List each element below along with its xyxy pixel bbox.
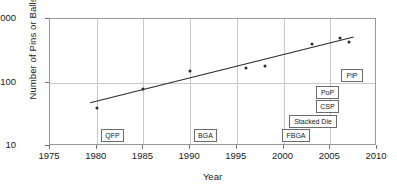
gridline-vertical <box>143 19 144 144</box>
callout-pip: PiP <box>341 69 363 82</box>
data-point <box>189 70 192 73</box>
y-tick-label: 100 <box>0 76 16 87</box>
x-tick-mark <box>236 145 237 149</box>
x-tick-mark <box>96 145 97 149</box>
x-axis-title: Year <box>49 171 376 182</box>
x-tick-mark <box>142 145 143 149</box>
x-tick-label: 1985 <box>119 150 165 161</box>
gridline-vertical <box>190 19 191 144</box>
x-tick-label: 2010 <box>353 150 397 161</box>
plot-area: QFPBGAFBGAStacked DieCSPPoPPiP <box>49 18 376 145</box>
x-tick-mark <box>283 145 284 149</box>
data-point <box>310 43 313 46</box>
x-tick-label: 1980 <box>73 150 119 161</box>
y-tick-label: 10 <box>0 139 16 150</box>
data-point <box>95 106 98 109</box>
gridline-vertical <box>284 19 285 144</box>
x-tick-mark <box>329 145 330 149</box>
gridline-vertical <box>97 19 98 144</box>
data-point <box>142 88 145 91</box>
callout-bga: BGA <box>194 129 217 142</box>
callout-pop: PoP <box>316 86 339 99</box>
chart-figure: Number of Pins or Balls Year 101001000 1… <box>0 0 397 193</box>
x-tick-mark <box>49 145 50 149</box>
callout-csp: CSP <box>316 100 339 113</box>
data-point <box>347 41 350 44</box>
data-point <box>245 66 248 69</box>
callout-fbga: FBGA <box>282 129 310 142</box>
x-tick-label: 1990 <box>166 150 212 161</box>
callout-qfp: QFP <box>101 129 124 142</box>
callout-stacked-die: Stacked Die <box>289 115 337 128</box>
gridline-vertical <box>237 19 238 144</box>
y-axis-title: Number of Pins or Balls <box>27 0 38 119</box>
data-point <box>263 64 266 67</box>
x-tick-label: 2005 <box>306 150 352 161</box>
x-tick-label: 1975 <box>26 150 72 161</box>
x-tick-mark <box>189 145 190 149</box>
x-tick-label: 2000 <box>260 150 306 161</box>
data-point <box>338 37 341 40</box>
y-tick-label: 1000 <box>0 12 16 23</box>
x-tick-mark <box>376 145 377 149</box>
gridline-horizontal <box>50 83 375 84</box>
x-tick-label: 1995 <box>213 150 259 161</box>
